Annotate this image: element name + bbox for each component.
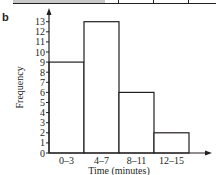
y-tick-label: 1 <box>40 137 45 148</box>
y-tick-label: 8 <box>40 67 45 78</box>
y-tick-label: 11 <box>35 36 45 47</box>
y-tick-label: 13 <box>35 16 45 27</box>
x-axis-arrow-icon <box>205 151 212 156</box>
y-axis-arrow-icon <box>47 8 52 15</box>
y-tick-label: 2 <box>40 127 45 138</box>
x-category-label: 12–15 <box>159 155 184 166</box>
y-tick-label: 6 <box>40 87 45 98</box>
histogram-bar <box>119 92 154 153</box>
y-tick-label: 0 <box>40 148 45 159</box>
y-tick-label: 4 <box>40 107 45 118</box>
y-axis-title: Frequency <box>14 66 25 108</box>
y-tick-label: 9 <box>40 57 45 68</box>
y-tick-label: 3 <box>40 117 45 128</box>
y-tick-label: 12 <box>35 26 45 37</box>
y-tick-label: 5 <box>40 97 45 108</box>
histogram-bar <box>154 133 189 153</box>
y-tick-label: 10 <box>35 47 45 58</box>
y-tick-label: 7 <box>40 77 45 88</box>
histogram-bar <box>84 22 119 153</box>
histogram-bar <box>49 62 84 153</box>
x-category-label: 0–3 <box>59 155 74 166</box>
histogram-chart: 0123456789101112130–34–78–1112–15Time (m… <box>0 0 216 175</box>
x-axis-title: Time (minutes) <box>88 165 150 175</box>
